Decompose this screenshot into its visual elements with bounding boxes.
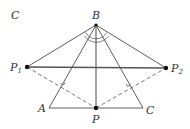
label-p2: P2 bbox=[170, 62, 183, 76]
dashed-p-p2 bbox=[96, 68, 166, 108]
segment-b-p1 bbox=[27, 25, 96, 67]
point-p2 bbox=[164, 66, 168, 70]
panel-label: C bbox=[11, 9, 20, 22]
point-p1 bbox=[25, 65, 29, 69]
segment-b-p2 bbox=[96, 25, 166, 68]
reflection-geometry-diagram: C B P1 P2 A C P bbox=[0, 0, 190, 129]
label-p: P bbox=[91, 113, 100, 126]
right-angle-marker-right bbox=[126, 83, 131, 86]
label-c: C bbox=[146, 104, 155, 117]
point-b bbox=[94, 23, 97, 26]
side-bc bbox=[96, 25, 143, 108]
label-p1: P1 bbox=[9, 61, 22, 75]
point-p bbox=[94, 106, 98, 110]
label-a: A bbox=[37, 102, 46, 115]
segment-p1-p2 bbox=[27, 67, 166, 68]
label-b: B bbox=[91, 9, 100, 22]
